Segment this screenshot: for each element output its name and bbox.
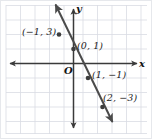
- point-label-neg1-3: (−1, 3): [22, 27, 56, 37]
- point-label-1-neg1: (1, −1): [92, 70, 126, 80]
- point-label-2-neg3: (2, −3): [103, 93, 137, 103]
- data-point-2: [71, 47, 76, 52]
- data-point-1: [57, 32, 62, 37]
- data-point-3: [86, 76, 91, 81]
- y-axis-label: y: [76, 4, 82, 14]
- data-point-4: [100, 105, 105, 110]
- origin-label: O: [64, 66, 73, 76]
- point-label-0-1: (0, 1): [77, 41, 103, 51]
- x-axis-label: x: [139, 59, 145, 69]
- coordinate-plane-figure: (−1, 3) (0, 1) (1, −1) (2, −3) y x O: [0, 0, 152, 139]
- graph-canvas: [0, 0, 152, 139]
- plot-background: [0, 0, 152, 139]
